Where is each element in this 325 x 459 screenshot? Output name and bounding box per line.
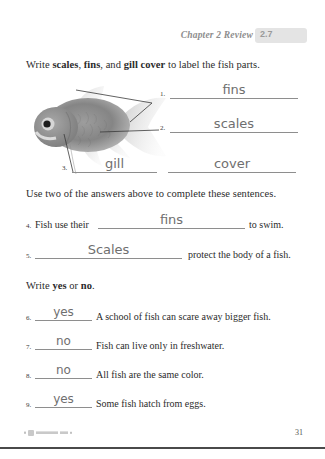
yesno-bold-yes: yes	[52, 280, 66, 291]
worksheet-page: Chapter 2 Review 2.7 Write scales, fins,…	[0, 0, 325, 459]
fish-label-rule-1[interactable]	[170, 98, 298, 99]
page-header: Chapter 2 Review 2.7	[0, 28, 325, 52]
fish-label-rule-3a[interactable]	[72, 172, 157, 173]
question-number-9: 9.	[26, 401, 31, 409]
question-5-text-after: protect the body of a fish.	[188, 249, 291, 260]
sentence-instruction: Use two of the answers above to complete…	[26, 188, 276, 199]
instruction-bold-fins: fins	[84, 59, 101, 70]
question-7-text: Fish can live only in freshwater.	[96, 340, 224, 351]
question-6-text: A school of fish can scare away bigger f…	[96, 311, 271, 322]
question-number-6: 6.	[26, 314, 31, 322]
question-4-answer[interactable]: fins	[98, 212, 245, 227]
lesson-number-badge: 2.7	[255, 28, 307, 43]
yesno-text-mid: or	[67, 280, 81, 291]
question-9-answer[interactable]: yes	[35, 392, 92, 406]
question-number-7: 7.	[26, 343, 31, 351]
instruction-bold-scales: scales	[52, 59, 78, 70]
instruction-bold-gill-cover: gill cover	[124, 59, 166, 70]
fish-label-number-1: 1.	[160, 90, 165, 98]
label-instruction: Write scales, fins, and gill cover to la…	[26, 59, 260, 70]
question-8-blank-rule[interactable]	[35, 378, 92, 379]
question-4-blank-rule[interactable]	[98, 228, 245, 229]
question-7-answer[interactable]: no	[35, 334, 92, 348]
question-4-text-before: Fish use their	[35, 219, 89, 230]
fish-label-number-3: 3.	[62, 164, 67, 172]
fish-label-answer-3b[interactable]: cover	[168, 156, 296, 171]
yesno-instruction: Write yes or no.	[26, 280, 95, 291]
question-5-answer[interactable]: Scales	[35, 242, 182, 257]
fish-label-number-2: 2.	[160, 124, 165, 132]
fish-label-rule-3b[interactable]	[168, 172, 296, 173]
fish-label-answer-3a[interactable]: gill	[72, 156, 157, 171]
question-6-answer[interactable]: yes	[35, 305, 92, 319]
question-number-4: 4.	[26, 222, 31, 230]
page-number: 31	[295, 428, 303, 437]
question-7-blank-rule[interactable]	[35, 349, 92, 350]
yesno-text-post: .	[92, 280, 95, 291]
question-number-5: 5.	[26, 252, 31, 260]
yesno-text-pre: Write	[26, 280, 52, 291]
footer-divider	[0, 447, 325, 449]
question-9-text: Some fish hatch from eggs.	[96, 398, 206, 409]
question-5-blank-rule[interactable]	[35, 258, 182, 259]
lesson-number-text: 2.7	[260, 29, 273, 39]
question-8-answer[interactable]: no	[35, 363, 92, 377]
fish-label-answer-1[interactable]: fins	[170, 82, 298, 97]
instruction-text-mid2: , and	[100, 59, 123, 70]
instruction-text-pre: Write	[26, 59, 52, 70]
fish-head	[34, 107, 78, 147]
question-4-text-after: to swim.	[249, 219, 283, 230]
question-6-blank-rule[interactable]	[35, 320, 92, 321]
fish-eye-pupil	[43, 120, 50, 127]
question-8-text: All fish are the same color.	[96, 369, 204, 380]
fish-label-rule-2[interactable]	[170, 132, 298, 133]
instruction-text-post: to label the fish parts.	[165, 59, 260, 70]
publisher-logo	[24, 429, 80, 437]
chapter-review-title: Chapter 2 Review	[181, 30, 253, 40]
yesno-bold-no: no	[81, 280, 92, 291]
question-number-8: 8.	[26, 372, 31, 380]
fish-label-answer-2[interactable]: scales	[170, 116, 298, 131]
question-9-blank-rule[interactable]	[35, 407, 92, 408]
